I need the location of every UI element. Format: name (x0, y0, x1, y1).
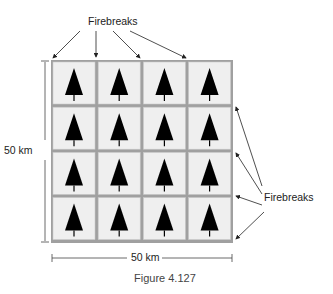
forest-cell (98, 107, 140, 149)
forest-cell (53, 62, 95, 104)
forest-cell (53, 198, 95, 240)
forest-cell (143, 62, 185, 104)
height-dimension-label: 50 km (4, 144, 33, 156)
forest-cell (143, 198, 185, 240)
forest-cell (98, 198, 140, 240)
forest-cell (143, 107, 185, 149)
forest-cell (98, 62, 140, 104)
top-firebreaks-label: Firebreaks (88, 15, 138, 27)
right-firebreak-arrows (236, 107, 264, 239)
forest-cell (53, 107, 95, 149)
forest-cell (189, 198, 231, 240)
top-firebreak-arrows (53, 31, 186, 58)
forest-cell (98, 152, 140, 194)
width-dimension-label: 50 km (129, 251, 162, 263)
figure-caption: Figure 4.127 (134, 272, 196, 284)
forest-cell (189, 107, 231, 149)
left-dimension-line (41, 61, 49, 242)
firebreak-diagram (0, 0, 333, 294)
forest-cell (143, 152, 185, 194)
forest-cell (53, 152, 95, 194)
forest-cell (189, 62, 231, 104)
right-firebreaks-label: Firebreaks (264, 191, 314, 203)
forest-cell (189, 152, 231, 194)
